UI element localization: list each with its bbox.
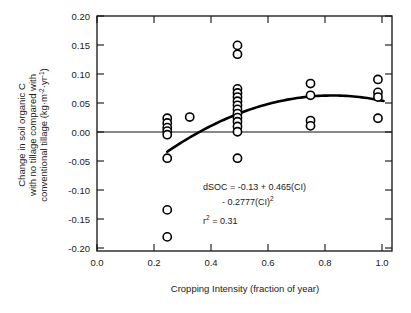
y-axis-title-line1: Change in soil organic C xyxy=(16,83,27,187)
y-tick-label: 0.15 xyxy=(72,40,91,51)
y-axis-title-line3-mid: ·yr xyxy=(38,77,49,88)
x-tick-label: 0.8 xyxy=(318,257,331,268)
equation-line-1: dSOC = -0.13 + 0.465(CI) xyxy=(203,182,306,192)
y-tick-labels: 0.20 0.15 0.10 0.05 0.00 -0.05 -0.10 -0.… xyxy=(68,11,90,254)
data-point xyxy=(374,114,382,122)
scatter-plot: Change in soil organic C with no tillage… xyxy=(0,0,411,313)
data-point xyxy=(233,154,241,162)
data-point xyxy=(233,128,241,136)
r-squared-value: = 0.31 xyxy=(210,216,238,226)
y-tick-label: -0.05 xyxy=(68,156,90,167)
equation-annotation: dSOC = -0.13 + 0.465(CI) - 0.2777(CI)2 r… xyxy=(203,182,306,226)
y-tick-label: 0.10 xyxy=(72,69,91,80)
y-tick-label: 0.05 xyxy=(72,98,91,109)
y-tick-label: 0.20 xyxy=(72,11,91,22)
x-tick-label: 1.0 xyxy=(375,257,388,268)
regression-curve xyxy=(167,96,383,152)
data-point xyxy=(163,233,171,241)
plot-frame xyxy=(97,16,392,251)
y-axis-title-line3-main: conventional tillage (kg·m xyxy=(38,94,49,202)
y-axis-title: Change in soil organic C with no tillage… xyxy=(16,68,49,202)
data-point xyxy=(186,113,194,121)
x-tick-labels: 0.0 0.2 0.4 0.6 0.8 1.0 xyxy=(90,257,388,268)
data-point xyxy=(233,50,241,58)
equation-line-2-main: - 0.2777(CI) xyxy=(222,197,270,207)
data-point xyxy=(374,93,382,101)
y-tick-label: -0.20 xyxy=(68,243,90,254)
data-point xyxy=(306,122,314,130)
data-points-layer xyxy=(163,41,382,241)
data-point xyxy=(163,206,171,214)
data-point xyxy=(306,79,314,87)
y-axis-title-line3-end: ) xyxy=(38,68,49,71)
x-tick-label: 0.6 xyxy=(261,257,274,268)
y-axis-title-line3: conventional tillage (kg·m-2·yr-1) xyxy=(38,68,49,202)
x-tick-label: 0.4 xyxy=(204,257,217,268)
data-point xyxy=(306,91,314,99)
x-axis-title: Cropping Intensity (fraction of year) xyxy=(171,283,319,294)
y-axis-title-line2: with no tillage compared with xyxy=(27,74,38,197)
data-point xyxy=(374,75,382,83)
x-tick-label: 0.0 xyxy=(90,257,103,268)
data-point xyxy=(233,41,241,49)
y-tick-label: -0.10 xyxy=(68,185,90,196)
r-squared-line: r2 = 0.31 xyxy=(203,214,237,226)
y-tick-label: -0.15 xyxy=(68,214,90,225)
data-point xyxy=(163,154,171,162)
equation-exponent: 2 xyxy=(270,195,274,202)
y-tick-label: 0.00 xyxy=(72,127,91,138)
figure-container: Change in soil organic C with no tillage… xyxy=(0,0,411,313)
data-point xyxy=(163,131,171,139)
x-tick-label: 0.2 xyxy=(147,257,160,268)
equation-line-2: - 0.2777(CI)2 xyxy=(222,195,274,207)
